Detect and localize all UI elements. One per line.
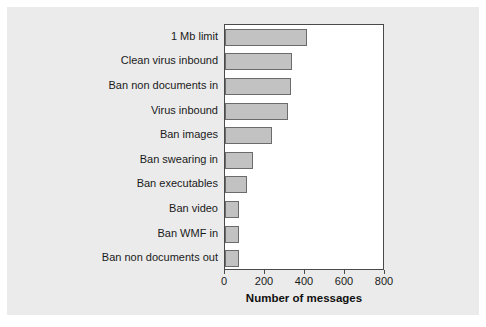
y-axis-tick-label: Ban swearing in — [0, 154, 218, 165]
x-axis-tick-label: 800 — [375, 276, 393, 287]
x-axis-title: Number of messages — [224, 292, 384, 304]
bar — [225, 201, 239, 218]
x-axis-tick-mark — [304, 270, 305, 274]
chart-figure: 1 Mb limitClean virus inboundBan non doc… — [0, 0, 486, 327]
bar — [225, 127, 272, 144]
x-axis-tick-mark — [224, 270, 225, 274]
x-axis: 0200400600800 — [224, 270, 384, 310]
x-axis-tick-label: 600 — [335, 276, 353, 287]
bar — [225, 53, 292, 70]
x-axis-tick-mark — [384, 270, 385, 274]
x-axis-tick-mark — [264, 270, 265, 274]
bar — [225, 103, 288, 120]
plot-area — [224, 24, 384, 270]
y-axis-tick-label: Ban images — [0, 129, 218, 140]
bar — [225, 250, 239, 267]
y-axis-tick-label: Virus inbound — [0, 105, 218, 116]
bar — [225, 29, 307, 46]
y-axis-tick-label: Ban non documents out — [0, 252, 218, 263]
x-axis-tick-label: 200 — [255, 276, 273, 287]
x-axis-tick-mark — [344, 270, 345, 274]
bar — [225, 152, 253, 169]
x-axis-tick-label: 0 — [221, 276, 227, 287]
x-axis-tick-label: 400 — [295, 276, 313, 287]
bar — [225, 78, 291, 95]
bars-layer — [225, 25, 383, 269]
y-axis-tick-label: Ban executables — [0, 178, 218, 189]
y-axis-tick-label: Ban WMF in — [0, 228, 218, 239]
y-axis-category-labels: 1 Mb limitClean virus inboundBan non doc… — [0, 24, 218, 270]
y-axis-tick-label: Clean virus inbound — [0, 55, 218, 66]
bar — [225, 226, 239, 243]
y-axis-tick-label: 1 Mb limit — [0, 31, 218, 42]
y-axis-tick-label: Ban video — [0, 203, 218, 214]
y-axis-tick-label: Ban non documents in — [0, 80, 218, 91]
bar — [225, 176, 247, 193]
